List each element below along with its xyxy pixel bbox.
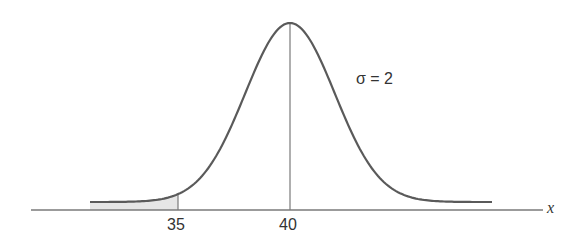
x-axis-label: x xyxy=(547,199,554,217)
bell-curve xyxy=(90,23,492,202)
tick-label-35: 35 xyxy=(167,216,185,234)
tick-label-40: 40 xyxy=(279,216,297,234)
normal-curve-chart xyxy=(0,0,582,251)
sigma-annotation: σ = 2 xyxy=(356,70,393,88)
